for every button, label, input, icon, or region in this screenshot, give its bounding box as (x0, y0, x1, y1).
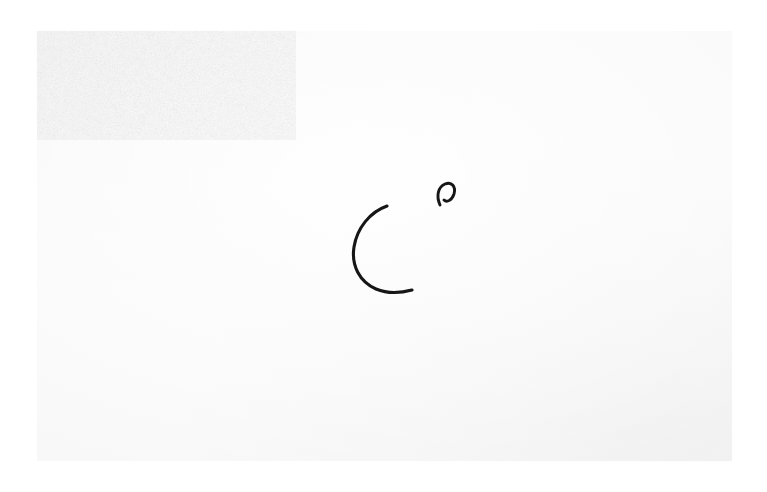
paper-lighting (36, 30, 733, 462)
paper-sheet (36, 30, 733, 462)
paper-grain-layer-fine (36, 30, 296, 140)
paper-edge-highlight (36, 30, 733, 462)
paper-grain-layer-mottle (36, 30, 296, 140)
image-canvas: Two small black ink pen strokes drawn on… (0, 0, 767, 492)
paper-grain-layer-coarse (36, 30, 296, 140)
